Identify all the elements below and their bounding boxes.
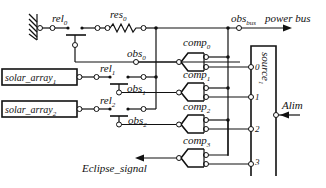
rel0-label: rel0 bbox=[52, 12, 68, 27]
comp2-label: comp2 bbox=[183, 100, 211, 115]
power-circuit-diagram: rel0 res0 obsbus power bus obs0 solar_ar… bbox=[0, 0, 326, 188]
obs2-label: obs2 bbox=[128, 114, 147, 129]
obs-bus-pin bbox=[237, 26, 242, 31]
comp1-label: comp1 bbox=[183, 68, 210, 83]
source-port-1: 1 bbox=[255, 92, 260, 102]
arrow-left-icon bbox=[280, 112, 289, 119]
comparator-comp2 bbox=[177, 115, 209, 133]
solar-array-1: solar_array1 bbox=[2, 69, 77, 86]
obs-bus-label: obsbus bbox=[231, 12, 256, 27]
power-bus-label: power bus bbox=[264, 12, 311, 24]
comp0-label: comp0 bbox=[183, 36, 211, 51]
comparator-comp1 bbox=[177, 83, 209, 101]
ground-pin bbox=[38, 26, 43, 31]
alim-label: Alim bbox=[281, 99, 303, 111]
solar-array-2: solar_array2 bbox=[2, 101, 77, 118]
obs0-pin bbox=[134, 60, 139, 65]
obs1-label: obs1 bbox=[127, 82, 146, 97]
arrow-right-icon bbox=[283, 25, 292, 32]
source-port-2: 2 bbox=[255, 124, 260, 134]
res0-label: res0 bbox=[110, 8, 127, 23]
ground-hatch-icon bbox=[29, 14, 37, 40]
comparator-comp3 bbox=[177, 149, 209, 167]
rel1-label: rel1 bbox=[100, 62, 115, 77]
arrow-left-icon bbox=[135, 155, 144, 162]
resistor-res0 bbox=[82, 24, 156, 32]
comp3-label: comp3 bbox=[183, 134, 211, 149]
rel2-label: rel2 bbox=[100, 94, 116, 109]
source-port-3: 3 bbox=[254, 157, 260, 167]
eclipse-signal-label: Eclipse_signal bbox=[81, 162, 147, 174]
source-port-0: 0 bbox=[255, 62, 260, 72]
